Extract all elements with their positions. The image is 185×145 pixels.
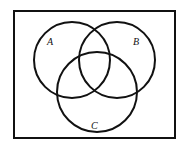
set-c-label: C: [91, 120, 98, 131]
set-b-label: B: [133, 36, 139, 47]
set-a-label: A: [46, 36, 54, 47]
venn-diagram: A B C: [0, 0, 185, 145]
set-b-circle: [79, 22, 155, 98]
